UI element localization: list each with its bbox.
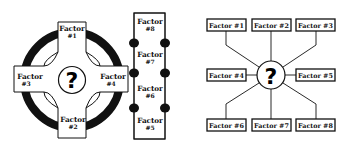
cross-num-right: #4 [106,80,115,87]
column-diagram: Factor #8 Factor #7 Factor #6 Factor #5 [129,13,170,139]
cross-num-top: #1 [67,32,76,39]
factor-box-1-label: Factor #1 [209,22,244,30]
cross-num-bottom: #2 [68,123,77,130]
column-num-6: #6 [145,92,154,99]
factor-box-5-label: Factor #5 [298,72,333,80]
diagram-canvas: ? Factor #1 Factor #2 Factor #3 Factor #… [0,0,352,149]
factor-box-7-label: Factor #7 [254,122,289,130]
factor-box-6-label: Factor #6 [209,122,244,130]
question-mark-icon: ? [66,68,79,93]
question-mark-icon: ? [265,64,278,89]
factor-box-8-label: Factor #8 [298,122,333,130]
column-num-7: #7 [145,58,154,65]
cross-num-left: #3 [21,80,30,87]
factor-box-3-label: Factor #3 [298,22,333,30]
cross-diagram: ? Factor #1 Factor #2 Factor #3 Factor #… [14,22,128,138]
column-num-5: #5 [145,124,154,131]
hub-diagram: ? Factor #1 Factor #2 Factor #3 Factor #… [207,19,335,131]
factor-box-2-label: Factor #2 [254,22,289,30]
factor-box-4-label: Factor #4 [209,72,244,80]
column-num-8: #8 [145,25,154,32]
